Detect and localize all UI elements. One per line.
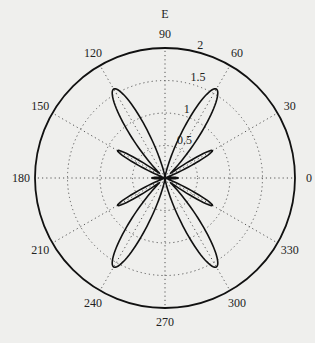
angle-tick-label: 150 [31, 99, 49, 113]
radial-tick-label: 0.5 [177, 133, 192, 147]
angle-tick-label: 60 [231, 46, 243, 60]
grid-spoke [52, 113, 165, 178]
radial-tick-label: 1 [184, 102, 190, 116]
angle-tick-label: 300 [228, 296, 246, 310]
grid-spoke [52, 178, 165, 243]
angle-tick-label: 210 [31, 243, 49, 257]
angle-tick-label: 120 [84, 46, 102, 60]
angle-tick-label: 270 [156, 315, 174, 329]
angle-tick-label: 240 [84, 296, 102, 310]
polar-chart: E 0306090120150180210240270300330 0.511.… [0, 0, 315, 343]
angle-tick-label: 330 [281, 243, 299, 257]
angle-tick-label: 30 [284, 99, 296, 113]
radial-tick-labels: 0.511.52 [177, 38, 206, 147]
chart-title: E [161, 7, 168, 21]
radial-tick-label: 1.5 [191, 70, 206, 84]
angle-tick-label: 180 [12, 171, 30, 185]
angle-tick-label: 90 [159, 27, 171, 41]
radial-tick-label: 2 [197, 38, 203, 52]
polar-grid [35, 48, 295, 308]
angle-tick-label: 0 [306, 171, 312, 185]
